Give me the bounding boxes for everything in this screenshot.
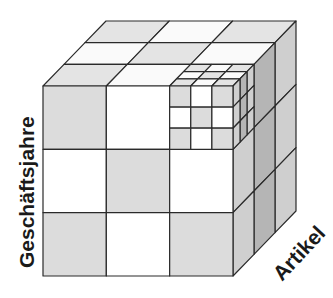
drilldown-front-cell [212, 107, 233, 128]
front-cell [106, 213, 169, 276]
front-cell [106, 86, 169, 149]
drilldown-front-cell [170, 107, 191, 128]
drilldown-front-cell [170, 86, 191, 107]
front-cell [43, 213, 106, 276]
drilldown-front-cell [170, 128, 191, 149]
drilldown-front-cell [212, 86, 233, 107]
olap-cube-diagram: Geschäftsjahre Artikel [0, 0, 333, 298]
front-cell [170, 213, 233, 276]
axis-label-geschaeftsjahre: Geschäftsjahre [15, 116, 38, 268]
drilldown-front-cell [191, 128, 212, 149]
front-cell [43, 86, 106, 149]
front-cell [170, 149, 233, 212]
front-cell [106, 149, 169, 212]
cube [43, 21, 296, 276]
drilldown-front-cell [191, 86, 212, 107]
drilldown-front-cell [212, 128, 233, 149]
front-cell [43, 149, 106, 212]
drilldown-front-cell [191, 107, 212, 128]
